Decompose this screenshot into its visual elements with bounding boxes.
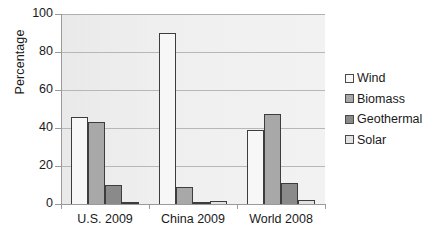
legend-swatch-icon xyxy=(345,115,354,124)
plot-area xyxy=(61,14,325,204)
y-tick-label: 20 xyxy=(7,158,53,172)
x-tick-mark xyxy=(149,204,150,209)
legend-label: Solar xyxy=(357,134,386,147)
legend-item-biomass[interactable]: Biomass xyxy=(345,93,422,106)
bar-geothermal-world-2008[interactable] xyxy=(281,183,298,204)
bar-biomass-china-2009[interactable] xyxy=(176,187,193,204)
legend-item-solar[interactable]: Solar xyxy=(345,134,422,147)
y-axis-title: Percentage xyxy=(13,2,27,122)
legend-label: Wind xyxy=(357,72,385,85)
x-axis-label-2: China 2009 xyxy=(149,212,237,226)
bar-wind-world-2008[interactable] xyxy=(247,130,264,204)
legend-swatch-icon xyxy=(345,135,354,144)
bar-geothermal-u-s-2009[interactable] xyxy=(105,185,122,204)
x-axis-line xyxy=(61,204,326,205)
y-axis-line xyxy=(61,14,62,205)
legend-swatch-icon xyxy=(345,94,354,103)
bar-group xyxy=(159,14,227,204)
y-tick-label: 0 xyxy=(7,196,53,210)
y-tick-label: 60 xyxy=(7,82,53,96)
y-tick-label: 100 xyxy=(7,6,53,20)
bar-biomass-u-s-2009[interactable] xyxy=(88,122,105,204)
legend-swatch-icon xyxy=(345,74,354,83)
bar-wind-china-2009[interactable] xyxy=(159,33,176,204)
legend-item-geothermal[interactable]: Geothermal xyxy=(345,113,422,126)
x-tick-mark xyxy=(237,204,238,209)
x-axis-label-3: World 2008 xyxy=(237,212,325,226)
legend: WindBiomassGeothermalSolar xyxy=(345,72,422,146)
legend-item-wind[interactable]: Wind xyxy=(345,72,422,85)
x-axis-label-1: U.S. 2009 xyxy=(61,212,149,226)
bar-group xyxy=(247,14,315,204)
bar-group xyxy=(71,14,139,204)
y-tick-label: 40 xyxy=(7,120,53,134)
legend-label: Geothermal xyxy=(357,113,422,126)
x-tick-mark xyxy=(325,204,326,209)
bar-wind-u-s-2009[interactable] xyxy=(71,117,88,204)
x-tick-mark xyxy=(61,204,62,209)
bar-biomass-world-2008[interactable] xyxy=(264,114,281,204)
legend-label: Biomass xyxy=(357,93,405,106)
y-tick-label: 80 xyxy=(7,44,53,58)
bar-chart: Percentage 020406080100 U.S. 2009China 2… xyxy=(0,0,445,238)
